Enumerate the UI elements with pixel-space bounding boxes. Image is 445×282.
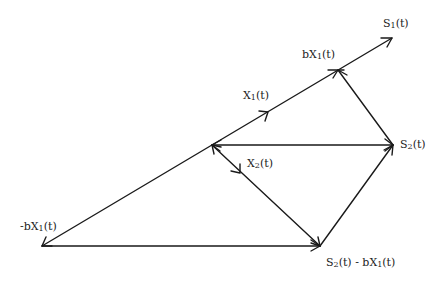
label-x1: X1(t) [243,90,269,102]
label-x2-tail: (t) [260,157,273,170]
label-x1-main: X [243,89,251,102]
label-bx1: bX1(t) [302,49,335,61]
diagram-canvas [0,0,445,282]
label-x2: X2(t) [247,158,273,170]
label-s2-minus-bx1-tail: (t) [382,256,395,269]
label-s2-main: S [400,138,408,151]
label-s2-tail: (t) [413,138,426,151]
label-neg-bx1-prefix: -bX [20,220,39,233]
label-s2-minus-bx1-main: S [326,256,334,269]
label-neg-bx1-tail: (t) [44,220,57,233]
right-lower-arrowhead [384,145,393,155]
label-x1-tail: (t) [256,89,269,102]
right-lower-line [320,145,393,246]
bx1-to-s2-line [338,70,393,145]
label-s1-tail: (t) [396,17,409,30]
label-x2-main: X [247,157,255,170]
label-s2: S2(t) [400,139,426,151]
label-s1: S1(t) [383,18,409,30]
label-bx1-prefix: bX [302,48,317,61]
label-bx1-tail: (t) [322,48,335,61]
label-neg-bx1: -bX1(t) [20,221,57,233]
x2-arrowhead [231,164,240,173]
label-s2-minus-bx1-mid: (t) - bX [339,256,378,269]
label-s1-main: S [383,17,391,30]
label-s2-minus-bx1: S2(t) - bX1(t) [326,257,395,269]
vector-diagram: S1(t) bX1(t) X1(t) S2(t) X2(t) -bX1(t) S… [0,0,445,282]
